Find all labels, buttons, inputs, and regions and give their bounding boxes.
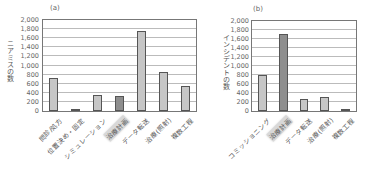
panel-label-b: (b) <box>253 5 263 13</box>
gridline <box>43 46 196 47</box>
bar <box>71 109 80 111</box>
gridline <box>43 28 196 29</box>
gridline <box>252 56 356 57</box>
gridline <box>43 65 196 66</box>
y-tick-label: 2,000 <box>20 16 39 24</box>
y-tick-label: 400 <box>237 89 249 97</box>
y-tick-label: 200 <box>237 98 249 106</box>
panel-label-a: (a) <box>50 4 60 12</box>
gridline <box>252 29 356 30</box>
y-tick-label: 200 <box>27 98 39 106</box>
y-tick-label: 800 <box>237 71 249 79</box>
chart-a-near-misses: (a) ニアミスの数 02004006008001,0001,2001,4001… <box>0 0 200 170</box>
gridline <box>43 55 196 56</box>
y-tick-label: 1,600 <box>20 34 39 42</box>
y-tick-label: 1,000 <box>230 62 249 70</box>
y-tick-label: 0 <box>35 107 39 115</box>
y-tick-label: 1,200 <box>20 52 39 60</box>
y-tick-label: 600 <box>27 80 39 88</box>
bar <box>137 31 146 111</box>
y-tick-label: 800 <box>27 71 39 79</box>
y-tick-label: 0 <box>245 107 249 115</box>
y-ticks-a: 02004006008001,0001,2001,4001,6001,8002,… <box>17 0 39 170</box>
gridline <box>43 83 196 84</box>
bar <box>258 75 267 111</box>
y-tick-label: 1,000 <box>20 62 39 70</box>
gridline <box>43 74 196 75</box>
bar <box>320 97 329 111</box>
gridline <box>43 92 196 93</box>
bar <box>93 95 102 111</box>
y-tick-label: 2,000 <box>230 17 249 25</box>
y-tick-label: 1,800 <box>230 26 249 34</box>
chart-b-incidents: (b) インシデントの数 02004006008001,0001,2001,40… <box>185 0 375 170</box>
y-tick-label: 400 <box>27 89 39 97</box>
bar <box>115 96 124 111</box>
bar <box>300 99 309 111</box>
bar <box>49 78 58 111</box>
plot-area-a <box>42 19 197 112</box>
gridline <box>252 65 356 66</box>
gridline <box>252 47 356 48</box>
gridline <box>252 74 356 75</box>
gridline <box>252 92 356 93</box>
y-tick-label: 1,600 <box>230 35 249 43</box>
bar <box>341 109 350 111</box>
gridline <box>252 38 356 39</box>
y-tick-label: 600 <box>237 80 249 88</box>
y-tick-label: 1,400 <box>20 43 39 51</box>
y-tick-label: 1,200 <box>230 53 249 61</box>
bar <box>159 72 168 111</box>
y-tick-label: 1,800 <box>20 25 39 33</box>
y-tick-label: 1,400 <box>230 44 249 52</box>
bar <box>279 34 288 111</box>
y-axis-label-a: ニアミスの数 <box>5 40 15 82</box>
gridline <box>252 83 356 84</box>
gridline <box>43 37 196 38</box>
plot-area-b <box>251 20 357 112</box>
